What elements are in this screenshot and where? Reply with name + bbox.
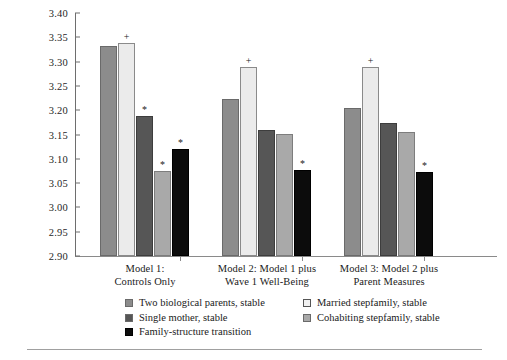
x-axis-group-label: Model 3: Model 2 plusParent Measures <box>294 262 484 288</box>
y-axis-tick-label: 3.10 <box>49 153 75 164</box>
y-axis-tick-label: 3.00 <box>49 202 75 213</box>
bar[interactable]: * <box>294 170 311 256</box>
y-axis-tick-label: 3.30 <box>49 56 75 67</box>
y-axis-tick-label: 2.90 <box>49 251 75 262</box>
bar[interactable] <box>380 123 397 256</box>
y-axis-tick-mark <box>75 207 80 208</box>
y-axis-tick-mark <box>75 183 80 184</box>
bar[interactable] <box>276 134 293 256</box>
legend-item-label: Family-structure transition <box>139 325 251 340</box>
significance-marker: * <box>300 159 305 169</box>
y-axis-tick-mark <box>75 256 80 257</box>
legend-item-label: Two biological parents, stable <box>139 296 265 311</box>
x-axis-group-label-line1: Model 3: Model 2 plus <box>294 262 484 275</box>
y-axis-tick-label: 2.95 <box>49 226 75 237</box>
significance-marker: * <box>160 160 165 170</box>
bar[interactable]: + <box>362 67 379 256</box>
legend-item[interactable]: Single mother, stable <box>125 311 265 326</box>
bar[interactable]: * <box>416 172 433 256</box>
bottom-divider <box>27 349 482 350</box>
bar-group: +* <box>344 13 434 256</box>
y-axis-tick-label: 3.40 <box>49 8 75 19</box>
significance-marker: + <box>368 56 374 66</box>
y-axis-tick-mark <box>75 231 80 232</box>
legend-item[interactable]: Two biological parents, stable <box>125 296 265 311</box>
legend-item-label: Married stepfamily, stable <box>317 296 427 311</box>
significance-marker: * <box>178 138 183 148</box>
bar[interactable] <box>222 99 239 256</box>
legend-swatch-icon <box>125 314 133 322</box>
bar[interactable] <box>258 130 275 256</box>
legend-item[interactable]: Family-structure transition <box>125 325 265 340</box>
y-axis-tick-mark <box>75 61 80 62</box>
x-axis-tick-mark <box>302 256 303 261</box>
y-axis-tick-mark <box>75 110 80 111</box>
bar[interactable]: * <box>154 171 171 256</box>
legend-item[interactable]: Cohabiting stepfamily, stable <box>303 311 440 326</box>
significance-marker: + <box>246 56 252 66</box>
y-axis-tick-label: 3.35 <box>49 32 75 43</box>
y-axis-tick-mark <box>75 37 80 38</box>
y-axis-tick-mark <box>75 13 80 14</box>
legend-swatch-icon <box>125 328 133 336</box>
bar-group: +* <box>222 13 312 256</box>
significance-marker: + <box>124 32 130 42</box>
plot-area: 3.403.353.303.253.203.153.103.053.002.95… <box>75 13 495 256</box>
legend-column-left: Two biological parents, stableSingle mot… <box>125 296 265 340</box>
significance-marker: * <box>422 161 427 171</box>
y-axis-tick-label: 3.05 <box>49 178 75 189</box>
x-axis-tick-mark <box>180 256 181 261</box>
y-axis-tick-mark <box>75 134 80 135</box>
bar[interactable]: + <box>240 67 257 256</box>
y-axis-tick-label: 3.20 <box>49 105 75 116</box>
bar[interactable] <box>100 46 117 256</box>
significance-marker: * <box>142 105 147 115</box>
legend-swatch-icon <box>125 299 133 307</box>
bar[interactable] <box>344 108 361 256</box>
y-axis-tick-label: 3.15 <box>49 129 75 140</box>
legend-column-right: Married stepfamily, stableCohabiting ste… <box>303 296 440 325</box>
legend-item[interactable]: Married stepfamily, stable <box>303 296 440 311</box>
bar[interactable] <box>398 132 415 256</box>
legend-swatch-icon <box>303 299 311 307</box>
chart-figure: Predicted Probability 3.403.353.303.253.… <box>0 0 507 360</box>
x-axis-group-label-line2: Parent Measures <box>294 275 484 288</box>
bar[interactable]: * <box>172 149 189 256</box>
x-axis-tick-mark <box>424 256 425 261</box>
legend-item-label: Cohabiting stepfamily, stable <box>317 311 440 326</box>
y-axis-tick-label: 3.25 <box>49 80 75 91</box>
x-axis-line <box>75 256 497 257</box>
legend-swatch-icon <box>303 314 311 322</box>
bar[interactable]: * <box>136 116 153 256</box>
legend-item-label: Single mother, stable <box>139 311 228 326</box>
y-axis-tick-mark <box>75 85 80 86</box>
bar[interactable]: + <box>118 43 135 256</box>
bar-group: +*** <box>100 13 190 256</box>
y-axis-tick-mark <box>75 158 80 159</box>
